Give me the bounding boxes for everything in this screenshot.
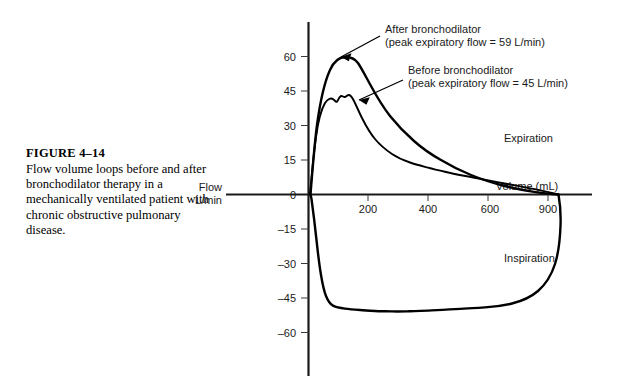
y-tick-label-45: 45 [284, 85, 296, 97]
annotation-before-arrowhead [359, 97, 370, 105]
y-axis-title-line2: L/min [195, 194, 222, 206]
x-axis-ticks [368, 195, 548, 202]
annotation-before-bronchodilator: Before bronchodilator (peak expiratory f… [359, 64, 568, 105]
y-tick-label-60: 60 [284, 51, 296, 63]
y-axis-title-line1: Flow [199, 181, 222, 193]
y-tick-label-neg30: –30 [278, 258, 296, 270]
y-tick-label-neg45: –45 [278, 292, 296, 304]
x-tick-label-600: 600 [481, 203, 499, 215]
expiration-label: Expiration [504, 132, 553, 144]
annotation-after-arrow [341, 36, 380, 57]
annotation-after-bronchodilator: After bronchodilator (peak expiratory fl… [341, 23, 545, 61]
annotation-before-line2: (peak expiratory flow = 45 L/min) [408, 77, 568, 89]
annotation-before-arrow [359, 80, 403, 100]
annotation-after-line2: (peak expiratory flow = 59 L/min) [385, 36, 545, 48]
annotation-before-line1: Before bronchodilator [408, 64, 514, 76]
x-tick-label-900: 900 [539, 203, 557, 215]
figure-page: FIGURE 4–14 Flow volume loops before and… [0, 0, 619, 390]
inspiration-label: Inspiration [504, 252, 555, 264]
y-tick-label-neg15: –15 [278, 223, 296, 235]
chart-svg: 60 45 30 15 0 –15 –30 –45 –60 Flow L/min [0, 0, 619, 390]
y-tick-label-30: 30 [284, 120, 296, 132]
x-tick-label-400: 400 [419, 203, 437, 215]
annotation-after-line1: After bronchodilator [385, 23, 481, 35]
flow-volume-loop-chart: 60 45 30 15 0 –15 –30 –45 –60 Flow L/min [0, 0, 619, 390]
x-axis-tick-labels: 200 400 600 900 [359, 203, 557, 215]
y-tick-label-neg60: –60 [278, 327, 296, 339]
y-tick-label-15: 15 [284, 154, 296, 166]
x-tick-label-200: 200 [359, 203, 377, 215]
y-tick-label-0: 0 [290, 189, 296, 201]
